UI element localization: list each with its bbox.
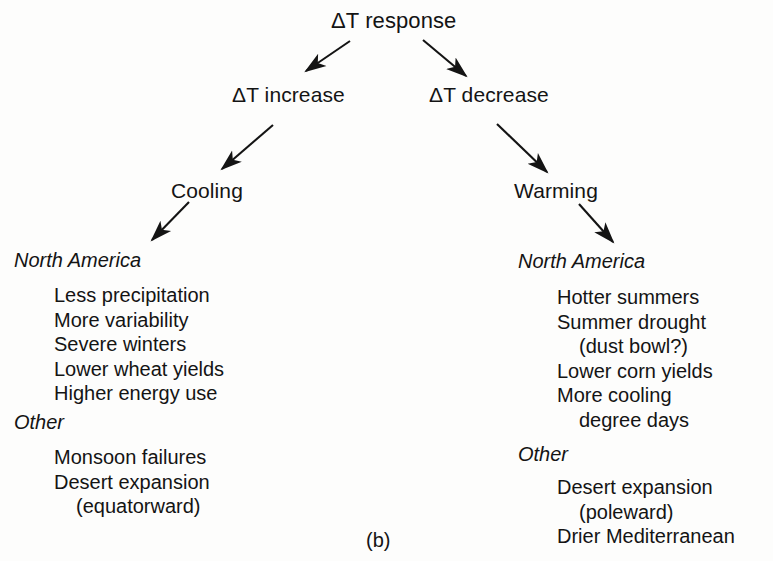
- figure-caption: (b): [366, 530, 390, 550]
- list-item: Drier Mediterranean: [557, 524, 735, 549]
- arrow-cooling-to-north-america: [152, 202, 189, 240]
- group-heading-cooling-other: Other: [14, 412, 64, 432]
- arrow-warming-to-north-america: [579, 204, 613, 242]
- node-cooling: Cooling: [171, 180, 243, 201]
- list-item: Higher energy use: [54, 381, 224, 406]
- list-item: (dust bowl?): [557, 334, 713, 359]
- list-item: Lower wheat yields: [54, 357, 224, 382]
- list-cooling-other: Monsoon failures Desert expansion (equat…: [54, 445, 210, 519]
- node-delta-t-decrease: ΔT decrease: [429, 84, 549, 105]
- arrow-increase-to-cooling: [222, 125, 273, 169]
- group-heading-warming-other: Other: [518, 444, 568, 464]
- list-item: Monsoon failures: [54, 445, 210, 470]
- node-root: ΔT response: [331, 10, 456, 32]
- node-warming: Warming: [514, 180, 598, 201]
- list-item: Desert expansion: [557, 475, 735, 500]
- list-warming-north-america: Hotter summers Summer drought (dust bowl…: [557, 285, 713, 433]
- list-item: (poleward): [557, 500, 735, 525]
- arrow-root-to-increase: [306, 41, 350, 71]
- arrow-root-to-decrease: [423, 40, 466, 76]
- figure-panel-b: ΔT response ΔT increase ΔT decrease Cool…: [0, 0, 773, 561]
- node-delta-t-increase: ΔT increase: [232, 84, 345, 105]
- list-item: Summer drought: [557, 310, 713, 335]
- list-item: Less precipitation: [54, 283, 224, 308]
- group-heading-cooling-north-america: North America: [14, 250, 141, 270]
- list-cooling-north-america: Less precipitation More variability Seve…: [54, 283, 224, 406]
- list-item: Hotter summers: [557, 285, 713, 310]
- list-item: degree days: [557, 408, 713, 433]
- list-item: More variability: [54, 308, 224, 333]
- arrow-decrease-to-warming: [497, 124, 547, 172]
- list-item: Lower corn yields: [557, 359, 713, 384]
- list-warming-other: Desert expansion (poleward) Drier Medite…: [557, 475, 735, 549]
- list-item: Severe winters: [54, 332, 224, 357]
- list-item: (equatorward): [54, 494, 210, 519]
- group-heading-warming-north-america: North America: [518, 251, 645, 271]
- list-item: More cooling: [557, 383, 713, 408]
- list-item: Desert expansion: [54, 470, 210, 495]
